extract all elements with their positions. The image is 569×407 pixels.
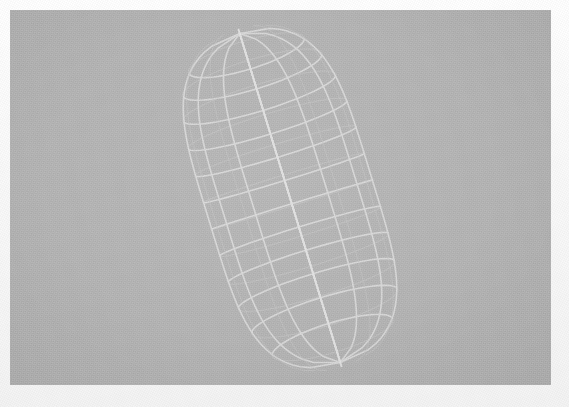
render-canvas — [10, 10, 551, 385]
meridian-line-back — [254, 26, 370, 362]
figure-page — [0, 0, 569, 407]
wireframe-viewport — [10, 10, 551, 385]
capsule-silhouette — [238, 29, 341, 367]
